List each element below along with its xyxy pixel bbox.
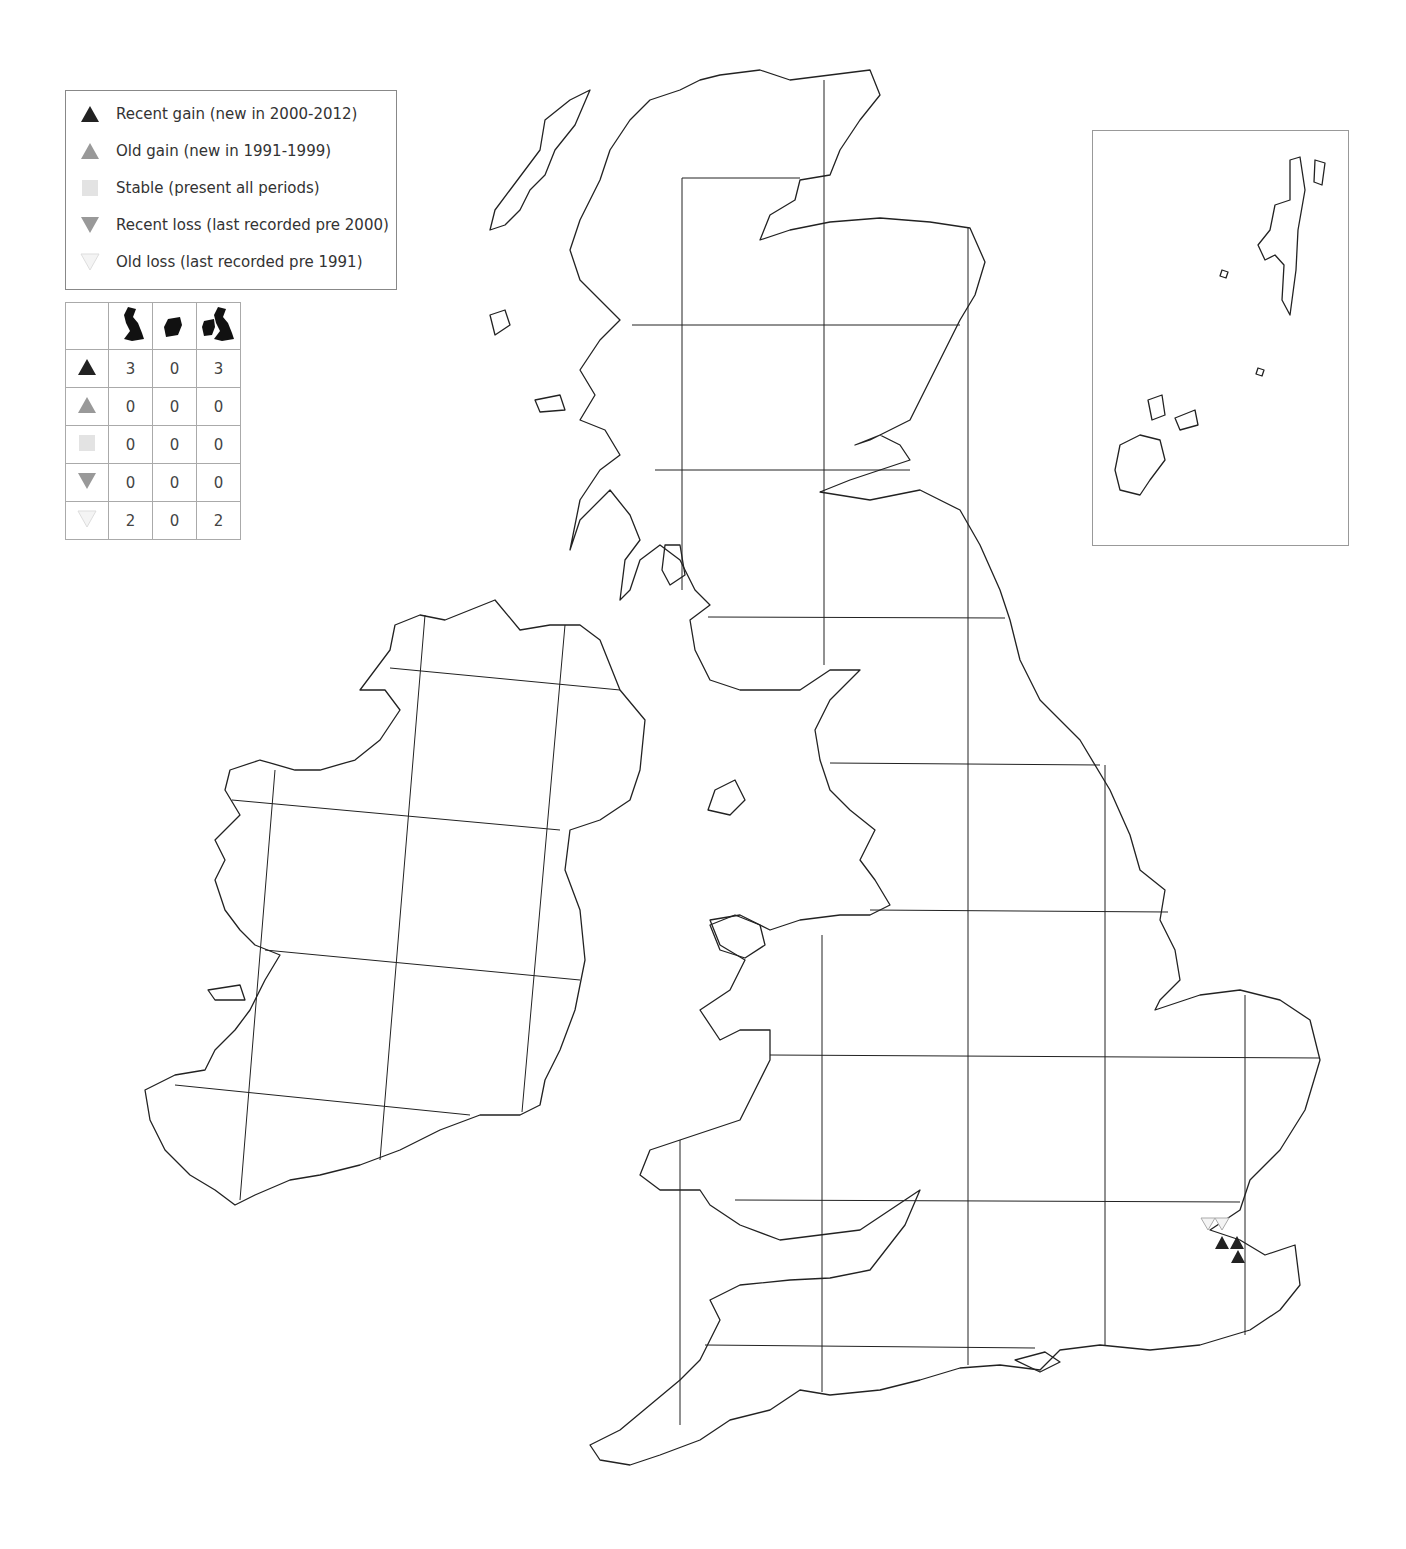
legend-item-old-loss: Old loss (last recorded pre 1991) [66,243,396,280]
count-cell: 0 [197,464,241,502]
legend-item-old-gain: Old gain (new in 1991-1999) [66,132,396,169]
legend-item-recent-gain: Recent gain (new in 2000-2012) [66,95,396,132]
count-cell: 0 [153,350,197,388]
ireland-outline [145,600,645,1205]
count-cell: 0 [153,388,197,426]
anglesey-outline [710,915,765,958]
triangle-down-light-icon [77,510,97,528]
count-cell: 0 [153,426,197,464]
legend-label: Recent loss (last recorded pre 2000) [116,216,389,234]
triangle-up-grey-icon [77,396,97,414]
counts-row-recent-loss: 0 0 0 [66,464,241,502]
outer-hebrides-outline [490,90,590,230]
counts-header-row [66,303,241,350]
isle-of-man-outline [708,780,745,815]
square-light-icon [77,434,97,452]
count-cell: 0 [197,426,241,464]
ireland-map-icon [153,303,197,350]
gb-ireland-map-icon [197,303,241,350]
triangle-up-dark-icon [80,105,100,123]
square-light-icon [80,179,100,197]
counts-row-stable: 0 0 0 [66,426,241,464]
legend-label: Old gain (new in 1991-1999) [116,142,331,160]
counts-row-recent-gain: 3 0 3 [66,350,241,388]
legend-item-stable: Stable (present all periods) [66,169,396,206]
recent-gain-marker [1231,1250,1245,1263]
count-cell: 0 [153,502,197,540]
count-cell: 0 [197,388,241,426]
counts-table: 3 0 3 0 0 0 0 0 0 0 0 0 2 0 2 [65,302,241,540]
legend-label: Recent gain (new in 2000-2012) [116,105,357,123]
triangle-down-grey-icon [77,472,97,490]
count-cell: 2 [109,502,153,540]
gb-map-icon [109,303,153,350]
occurrence-markers [1201,1218,1245,1263]
triangle-up-dark-icon [77,358,97,376]
isle-of-wight-outline [1015,1352,1060,1372]
count-cell: 2 [197,502,241,540]
count-cell: 0 [109,426,153,464]
map-legend: Recent gain (new in 2000-2012) Old gain … [65,90,397,290]
count-cell: 3 [197,350,241,388]
triangle-down-grey-icon [80,216,100,234]
recent-gain-marker [1215,1236,1229,1249]
count-cell: 0 [109,388,153,426]
legend-label: Stable (present all periods) [116,179,320,197]
counts-row-old-loss: 2 0 2 [66,502,241,540]
count-cell: 0 [153,464,197,502]
triangle-up-grey-icon [80,142,100,160]
empty-header-cell [66,303,109,350]
old-loss-marker [1215,1218,1229,1230]
count-cell: 0 [109,464,153,502]
northern-isles-inset-frame [1092,130,1349,546]
legend-item-recent-loss: Recent loss (last recorded pre 2000) [66,206,396,243]
legend-label: Old loss (last recorded pre 1991) [116,253,363,271]
count-cell: 3 [109,350,153,388]
counts-row-old-gain: 0 0 0 [66,388,241,426]
triangle-down-light-icon [80,253,100,271]
